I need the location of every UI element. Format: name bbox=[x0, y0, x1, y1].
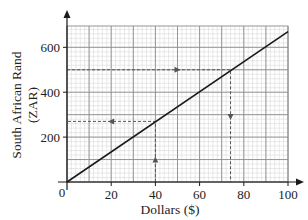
x-tick-label: 40 bbox=[149, 187, 162, 202]
x-tick-label: 100 bbox=[278, 187, 298, 202]
y-axis-arrow-icon bbox=[64, 10, 71, 18]
conversion-chart: 204060801000200400600 Dollars ($) South … bbox=[0, 0, 308, 220]
x-axis-title: Dollars ($) bbox=[141, 202, 200, 217]
y-tick-label: 200 bbox=[41, 130, 61, 145]
y-axis-title-line1: South African Rand bbox=[9, 51, 24, 158]
x-tick-label: 60 bbox=[193, 187, 206, 202]
x-tick-label: 80 bbox=[237, 187, 250, 202]
y-axis-title-line2: (ZAR) bbox=[25, 87, 40, 123]
x-axis-arrow-icon bbox=[296, 179, 304, 186]
y-tick-label: 600 bbox=[41, 40, 61, 55]
y-tick-label: 400 bbox=[41, 85, 61, 100]
origin-label: 0 bbox=[59, 185, 66, 200]
x-tick-label: 20 bbox=[105, 187, 118, 202]
